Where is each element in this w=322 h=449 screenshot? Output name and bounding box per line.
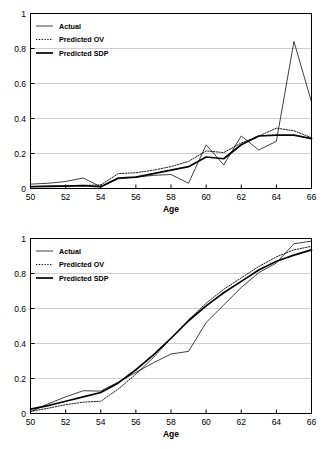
svg-text:0.2: 0.2 [14,149,26,159]
legend-label-actual: Actual [59,247,81,256]
series-line-predicted-ov [31,246,312,411]
series-line-actual [31,42,312,187]
svg-text:0.4: 0.4 [14,339,26,349]
chart-legend: ActualPredicted OVPredicted SDP [36,22,109,58]
chart-legend: ActualPredicted OVPredicted SDP [36,247,109,283]
svg-text:50: 50 [26,417,36,427]
svg-text:52: 52 [61,192,71,202]
legend-label-predicted-sdp: Predicted SDP [59,49,109,58]
svg-text:Age: Age [163,204,179,214]
svg-text:56: 56 [131,192,141,202]
svg-text:0.4: 0.4 [14,114,26,124]
svg-text:0.8: 0.8 [14,44,26,54]
series-line-predicted-sdp [31,135,312,187]
svg-text:54: 54 [96,192,106,202]
legend-label-predicted-sdp: Predicted SDP [59,274,109,283]
svg-text:1: 1 [21,9,26,19]
svg-text:Age: Age [163,429,179,439]
svg-text:58: 58 [166,192,176,202]
chart-panel-top: 00.20.40.60.81505254565860626466AgeActua… [0,0,322,224]
line-chart-top: 00.20.40.60.81505254565860626466AgeActua… [0,0,322,224]
legend-label-predicted-ov: Predicted OV [59,35,104,44]
svg-text:0.6: 0.6 [14,304,26,314]
svg-text:1: 1 [21,234,26,244]
svg-text:66: 66 [307,417,317,427]
svg-text:58: 58 [166,417,176,427]
series-line-predicted-ov [31,128,312,186]
svg-text:54: 54 [96,417,106,427]
line-chart-bottom: 00.20.40.60.81505254565860626466AgeActua… [0,225,322,449]
svg-text:64: 64 [272,192,282,202]
svg-text:56: 56 [131,417,141,427]
svg-text:0.6: 0.6 [14,79,26,89]
svg-text:52: 52 [61,417,71,427]
svg-text:66: 66 [307,192,317,202]
legend-label-predicted-ov: Predicted OV [59,260,104,269]
svg-text:50: 50 [26,192,36,202]
svg-text:0.2: 0.2 [14,374,26,384]
legend-label-actual: Actual [59,22,81,31]
svg-text:0.8: 0.8 [14,269,26,279]
svg-text:60: 60 [201,417,211,427]
svg-text:64: 64 [272,417,282,427]
figure-container: 00.20.40.60.81505254565860626466AgeActua… [0,0,322,449]
svg-text:60: 60 [201,192,211,202]
svg-text:62: 62 [237,417,247,427]
svg-text:62: 62 [237,192,247,202]
chart-panel-bottom: 00.20.40.60.81505254565860626466AgeActua… [0,225,322,449]
